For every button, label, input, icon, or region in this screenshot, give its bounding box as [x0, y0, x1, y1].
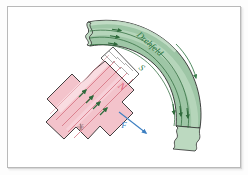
label-force: F — [120, 120, 127, 130]
figure-frame: Drehfeld S N F X — [0, 0, 248, 175]
label-pole-south: S — [137, 62, 147, 73]
diagram-stage: Drehfeld S N F X — [0, 0, 248, 175]
stator-end-bottom — [173, 126, 200, 151]
motor-diagram-svg: Drehfeld S N F X — [0, 0, 248, 175]
